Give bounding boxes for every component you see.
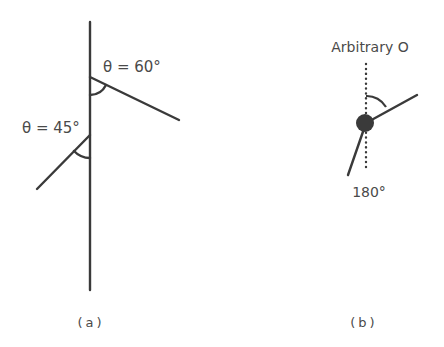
branch-60-line — [90, 77, 179, 120]
angle-45-label: θ = 45° — [22, 119, 80, 137]
panel-b-caption: (b) — [350, 315, 377, 330]
bond-upper-right-line — [366, 95, 417, 123]
angle-180-label: 180° — [352, 184, 386, 200]
branch-45-line — [37, 135, 90, 189]
dihedral-angle-arc — [366, 96, 386, 107]
angle-60-arc — [90, 85, 106, 95]
atom-dot — [356, 114, 374, 132]
panel-a-caption: (a) — [77, 315, 104, 330]
panel-b — [348, 64, 417, 175]
angle-45-arc — [74, 151, 90, 158]
diagram-canvas: θ = 60° θ = 45° (a) Arbitrary O 180° (b) — [0, 0, 444, 347]
angle-60-label: θ = 60° — [103, 58, 161, 76]
arbitrary-zero-label: Arbitrary O — [331, 39, 408, 55]
